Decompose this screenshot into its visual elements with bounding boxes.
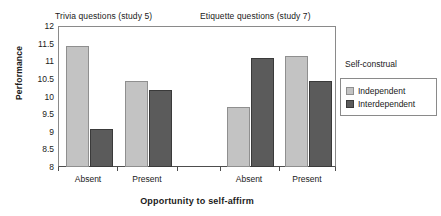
legend-swatch-icon (346, 87, 354, 95)
legend-item-label: Independent (358, 86, 405, 96)
bar-independent-absent-0 (66, 46, 89, 167)
panel-title-left: Trivia questions (study 5) (55, 11, 152, 21)
y-axis-tick-label: 10 (8, 92, 54, 101)
x-axis-category-labels: AbsentPresentAbsentPresent (58, 174, 336, 188)
y-axis-tick-label: 8 (8, 163, 54, 172)
bar-independent-present-1 (125, 81, 148, 167)
y-axis-tick-label: 9 (8, 127, 54, 136)
x-axis-category-label: Present (272, 174, 342, 184)
x-axis-category-label: Present (112, 174, 182, 184)
bar-interdependent-present-1 (149, 90, 172, 167)
y-axis-tick-label: 10.5 (8, 74, 54, 83)
x-axis-title: Opportunity to self-affirm (58, 196, 336, 206)
y-axis-tick-label: 9.5 (8, 110, 54, 119)
x-axis-tick-mark (117, 167, 118, 171)
y-axis-tick-label: 11 (8, 57, 54, 66)
y-axis-tick-labels: 88.599.51010.51111.512 (6, 26, 54, 167)
x-axis-tick-mark (335, 167, 336, 171)
legend-title: Self-construal (345, 59, 397, 69)
bar-independent-absent-2 (227, 107, 250, 167)
x-axis-tick-mark (177, 167, 178, 171)
bar-interdependent-absent-0 (90, 129, 113, 167)
x-axis-tick-mark (279, 167, 280, 171)
legend-item-independent[interactable]: Independent (346, 84, 432, 97)
chart-figure: Trivia questions (study 5) Etiquette que… (0, 0, 441, 216)
bars-layer (59, 27, 335, 167)
y-axis-tick-label: 11.5 (8, 39, 54, 48)
y-axis-tick-label: 8.5 (8, 145, 54, 154)
legend: IndependentInterdependent (340, 78, 437, 116)
legend-item-label: Interdependent (358, 99, 415, 109)
legend-swatch-icon (346, 100, 354, 108)
x-axis-tick-mark (220, 167, 221, 171)
bar-independent-present-3 (285, 56, 308, 167)
panel-title-right: Etiquette questions (study 7) (200, 11, 311, 21)
bar-interdependent-absent-2 (251, 58, 274, 167)
y-axis-tick-label: 12 (8, 22, 54, 31)
legend-item-interdependent[interactable]: Interdependent (346, 97, 432, 110)
x-axis-tick-mark (58, 167, 59, 171)
x-axis-tick-marks (58, 167, 336, 172)
bar-interdependent-present-3 (309, 81, 332, 167)
